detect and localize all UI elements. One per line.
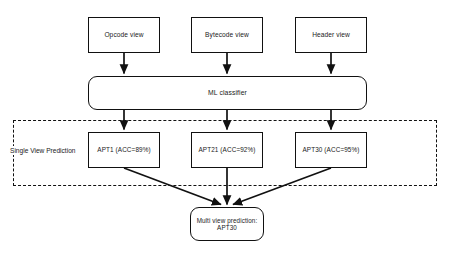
- node-multi-view-prediction[interactable]: Multi view prediction: APT30: [190, 207, 264, 241]
- node-header-view-label: Header view: [310, 31, 352, 39]
- node-header-view[interactable]: Header view: [295, 17, 367, 53]
- node-opcode-view-label: Opcode view: [102, 31, 145, 39]
- node-apt21-prediction-label: APT21 (ACC=92%): [196, 146, 257, 153]
- node-apt21-prediction[interactable]: APT21 (ACC=92%): [191, 132, 263, 168]
- node-ml-classifier-label: ML classifier: [206, 89, 249, 97]
- node-apt30-prediction[interactable]: APT30 (ACC=95%): [295, 132, 367, 168]
- node-multi-view-prediction-line2: APT30: [195, 224, 260, 231]
- node-apt1-prediction[interactable]: APT1 (ACC=89%): [88, 132, 160, 168]
- node-apt30-prediction-label: APT30 (ACC=95%): [300, 146, 361, 153]
- node-bytecode-view-label: Bytecode view: [203, 31, 251, 39]
- node-multi-view-prediction-line1: Multi view prediction:: [195, 217, 260, 224]
- node-bytecode-view[interactable]: Bytecode view: [191, 17, 263, 53]
- node-opcode-view[interactable]: Opcode view: [88, 17, 160, 53]
- diagram-canvas: Single View Prediction Opcode view Bytec…: [0, 0, 451, 258]
- node-multi-view-prediction-text: Multi view prediction: APT30: [195, 217, 260, 231]
- node-ml-classifier[interactable]: ML classifier: [88, 76, 367, 110]
- node-apt1-prediction-label: APT1 (ACC=89%): [95, 146, 152, 153]
- group-single-view-prediction-label: Single View Prediction: [9, 146, 96, 155]
